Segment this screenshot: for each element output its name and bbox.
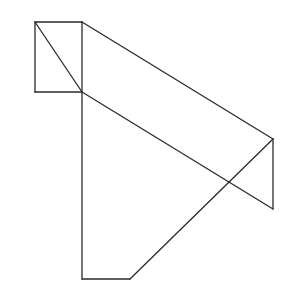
segment-BE — [82, 22, 273, 139]
geometric-figure — [0, 0, 295, 290]
segment-AC — [35, 22, 82, 92]
segment-CF — [82, 92, 273, 209]
segment-HE — [130, 139, 273, 279]
figure-lines — [35, 22, 273, 279]
